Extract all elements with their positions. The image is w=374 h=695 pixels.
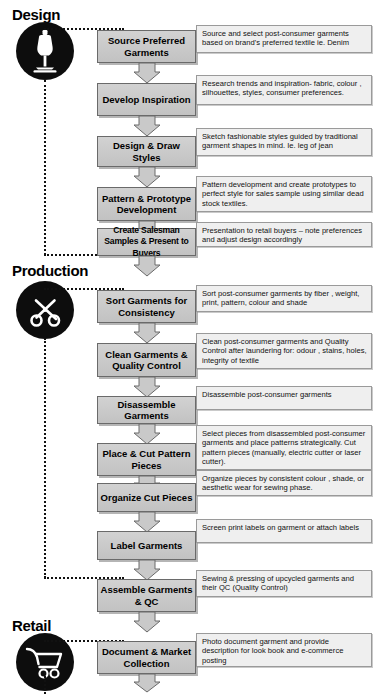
process-box-document-market-collection[interactable]: Document & Market Collection (97, 641, 196, 674)
description-create-salesman-samples: Presentation to retail buyers – note pre… (196, 222, 372, 247)
process-box-organize-cut-pieces[interactable]: Organize Cut Pieces (97, 483, 196, 512)
arrow-down-8 (133, 423, 161, 445)
process-box-place-cut-pattern-pieces[interactable]: Place & Cut Pattern Pieces (97, 443, 196, 476)
description-label-garments: Screen print labels on garment or attach… (196, 519, 372, 543)
arrow-down-2 (133, 115, 161, 137)
description-document-market-collection: Photo document garment and provide descr… (196, 633, 372, 667)
process-box-disassemble-garments[interactable]: Disassemble Garments (97, 396, 196, 424)
arrow-down-7 (133, 376, 161, 398)
description-organize-cut-pieces: Organize pieces by consistent colour , s… (196, 470, 372, 496)
arrow-down-3 (133, 166, 161, 188)
description-sort-garments-consistency: Sort post-consumer garments by fiber , w… (196, 285, 372, 312)
description-design-draw-styles: Sketch fashionable styles guided by trad… (196, 128, 372, 156)
arrow-down-5 (133, 255, 161, 277)
section-title-production: Production (12, 262, 88, 279)
description-place-cut-pattern-pieces: Select pieces from disassembled post-con… (196, 425, 372, 470)
description-develop-inspiration: Research trends and inspiration- fabric,… (196, 75, 372, 105)
process-box-source-preferred-garments[interactable]: Source Preferred Garments (97, 30, 196, 63)
arrow-down-1 (133, 62, 161, 84)
description-disassemble-garments: Disassemble post-consumer garments (196, 386, 372, 410)
description-assemble-garments-qc: Sewing & pressing of upcycled garments a… (196, 570, 372, 597)
arrow-down-6 (133, 322, 161, 344)
process-box-sort-garments-consistency[interactable]: Sort Garments for Consistency (97, 290, 196, 323)
flowchart-canvas: Design Source Preferred Garments Source … (0, 0, 374, 695)
connector-dotted-retail (44, 672, 46, 694)
process-box-clean-garments-quality-control[interactable]: Clean Garments & Quality Control (97, 343, 196, 377)
description-clean-garments-quality-control: Clean post-consumer garments and Quality… (196, 333, 372, 369)
process-box-pattern-prototype-development[interactable]: Pattern & Prototype Development (97, 187, 196, 221)
section-title-retail: Retail (12, 617, 51, 634)
process-box-create-salesman-samples[interactable]: Create Salesman Samples & Present to Buy… (97, 228, 196, 256)
arrow-down-12 (133, 611, 161, 633)
arrow-down-11 (133, 559, 161, 581)
section-title-design: Design (12, 6, 60, 23)
process-box-develop-inspiration[interactable]: Develop Inspiration (97, 83, 196, 116)
arrow-down-10 (133, 511, 161, 533)
dress-form-mannequin-icon (16, 22, 74, 80)
process-box-assemble-garments-qc[interactable]: Assemble Garments & QC (97, 579, 196, 612)
process-box-design-draw-styles[interactable]: Design & Draw Styles (97, 136, 196, 167)
connector-dotted-production (44, 338, 46, 578)
arrow-down-13 (133, 673, 161, 693)
connector-dotted-design (44, 80, 46, 255)
description-pattern-prototype-development: Pattern development and create prototype… (196, 176, 372, 212)
description-source-preferred-garments: Source and select post-consumer garments… (196, 25, 372, 53)
process-box-label-garments[interactable]: Label Garments (97, 531, 196, 560)
